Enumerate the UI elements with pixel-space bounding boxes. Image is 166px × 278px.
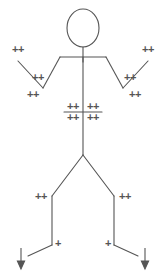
marker-abdomen-lower-left: ++ (67, 112, 79, 123)
right-foot-line (114, 245, 138, 256)
marker-left-hand: ++ (12, 44, 24, 55)
right-foot-down-arrow-icon (141, 248, 148, 269)
marker-right-hand: ++ (142, 44, 154, 55)
marker-left-elbow: ++ (27, 89, 39, 100)
marker-right-knee: ++ (119, 191, 131, 202)
marker-right-ankle: + (105, 238, 111, 249)
left-upper-arm-line (43, 57, 60, 88)
left-foot-line (28, 245, 52, 256)
right-thigh-line (83, 155, 114, 196)
right-upper-arm-line (106, 57, 123, 88)
marker-left-forearm: ++ (32, 72, 44, 83)
marker-right-forearm: ++ (124, 72, 136, 83)
left-thigh-line (52, 155, 83, 196)
stick-figure-diagram: ++ ++ ++ ++ ++ ++ ++ ++ ++ ++ ++ ++ + + (0, 0, 166, 278)
head-outline (67, 9, 99, 47)
marker-abdomen-lower-right: ++ (87, 112, 99, 123)
marker-left-knee: ++ (35, 191, 47, 202)
marker-left-ankle: + (55, 238, 61, 249)
left-foot-down-arrow-icon (17, 248, 24, 269)
marker-right-elbow: ++ (129, 89, 141, 100)
